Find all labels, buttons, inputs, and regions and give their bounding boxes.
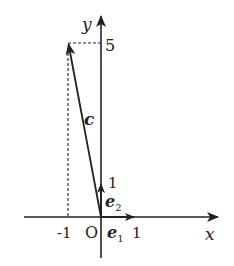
tick-label-x-neg1: -1 [57, 224, 72, 242]
vector-e2-subscript: 2 [115, 202, 121, 213]
y-axis-label: y [81, 14, 92, 34]
vector-c-label: c [84, 109, 95, 129]
vector-e2-label: e2 [105, 192, 122, 213]
tick-label-x-1: 1 [132, 224, 142, 242]
origin-label: O [85, 223, 98, 242]
tick-label-y-5: 5 [105, 36, 115, 55]
vector-e1-subscript: 1 [117, 233, 123, 244]
vector-diagram: y x O 5 1 -1 1 c e2 e1 [0, 0, 234, 266]
tick-label-y-1: 1 [108, 174, 118, 192]
vector-c [69, 44, 102, 217]
x-axis-label: x [205, 224, 215, 244]
vector-e1-label: e1 [107, 223, 124, 244]
